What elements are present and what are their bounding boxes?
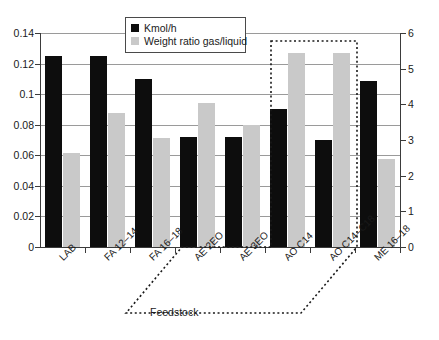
right-tick-label: 1 bbox=[408, 205, 414, 217]
bar-weight-ratio bbox=[198, 103, 215, 247]
right-tick-label: 6 bbox=[408, 27, 414, 39]
legend: Kmol/h Weight ratio gas/liquid bbox=[125, 17, 246, 53]
right-tick-label: 3 bbox=[408, 134, 414, 146]
x-axis-title: Feedstock bbox=[150, 306, 198, 318]
legend-item-weight-ratio: Weight ratio gas/liquid bbox=[131, 35, 240, 47]
left-tick-label: 0.08 bbox=[0, 119, 34, 131]
bar-kmol bbox=[315, 140, 332, 247]
bar-weight-ratio bbox=[63, 153, 80, 247]
bar-weight-ratio bbox=[153, 138, 170, 247]
left-tick-label: 0 bbox=[0, 241, 34, 253]
tick-bottom bbox=[220, 248, 221, 253]
bar-weight-ratio bbox=[243, 125, 260, 247]
tick-right-3 bbox=[401, 140, 406, 141]
legend-item-kmol: Kmol/h bbox=[131, 22, 240, 34]
left-tick-label: 0.12 bbox=[0, 58, 34, 70]
legend-swatch-icon bbox=[131, 24, 139, 32]
legend-label: Weight ratio gas/liquid bbox=[144, 35, 247, 47]
right-tick-label: 2 bbox=[408, 170, 414, 182]
tick-right-0 bbox=[401, 247, 406, 248]
right-tick-label: 0 bbox=[408, 241, 414, 253]
left-tick-label: 0.06 bbox=[0, 149, 34, 161]
tick-bottom bbox=[130, 248, 131, 253]
legend-label: Kmol/h bbox=[144, 22, 177, 34]
tick-bottom bbox=[355, 248, 356, 253]
tick-right-2 bbox=[401, 176, 406, 177]
tick-right-5 bbox=[401, 69, 406, 70]
tick-bottom bbox=[265, 248, 266, 253]
bar-kmol bbox=[135, 79, 152, 247]
legend-swatch-icon bbox=[131, 37, 139, 45]
right-tick-label: 5 bbox=[408, 63, 414, 75]
tick-right-1 bbox=[401, 211, 406, 212]
bar-weight-ratio bbox=[333, 53, 350, 247]
left-tick-label: 0.1 bbox=[0, 88, 34, 100]
tick-bottom bbox=[310, 248, 311, 253]
tick-bottom bbox=[175, 248, 176, 253]
bar-weight-ratio bbox=[288, 53, 305, 247]
bar-kmol bbox=[225, 137, 242, 247]
left-tick-label: 0.02 bbox=[0, 210, 34, 222]
left-tick-label: 0.04 bbox=[0, 180, 34, 192]
bar-kmol bbox=[270, 109, 287, 247]
tick-bottom bbox=[400, 248, 401, 253]
bars-layer bbox=[40, 33, 400, 247]
tick-right-4 bbox=[401, 104, 406, 105]
tick-right-6 bbox=[401, 33, 406, 34]
bar-kmol bbox=[90, 56, 107, 247]
bar-chart: 0.14 0.12 0.1 0.08 0.06 0.04 0.02 0 6 5 … bbox=[0, 0, 439, 340]
bar-weight-ratio bbox=[108, 113, 125, 247]
tick-bottom bbox=[85, 248, 86, 253]
tick-left-0 bbox=[35, 247, 40, 248]
right-tick-label: 4 bbox=[408, 98, 414, 110]
left-tick-label: 0.14 bbox=[0, 27, 34, 39]
bar-kmol bbox=[45, 56, 62, 247]
